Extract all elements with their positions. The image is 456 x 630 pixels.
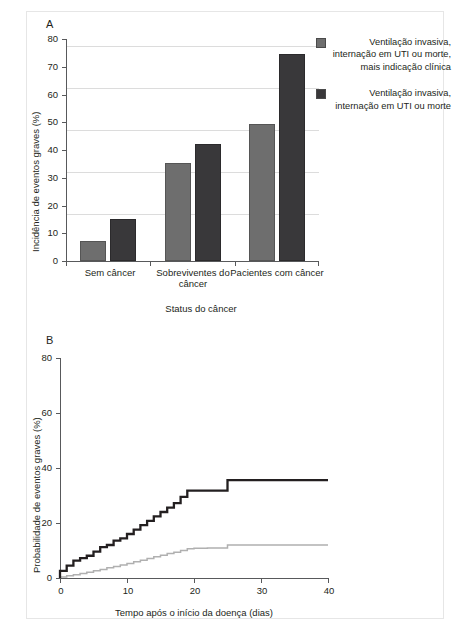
panel-a-y-tick-label: 50 <box>20 116 58 127</box>
panel-a-legend: Ventilação invasiva, internação em UTI o… <box>316 36 456 123</box>
panel-a-y-tick-label: 70 <box>20 61 58 72</box>
panel-a-x-group-tick <box>235 261 236 266</box>
panel-a-y-tick <box>62 233 66 234</box>
panel-a-y-tick-label: 30 <box>20 172 58 183</box>
legend-label-uti: Ventilação invasiva, internação em UTI o… <box>331 87 451 112</box>
panel-a-x-group-tick <box>66 261 67 266</box>
panel-b: B Probabilidade de eventos graves (%) 0 … <box>0 320 456 630</box>
bar-2-1 <box>279 54 305 261</box>
panel-a-y-tick-label: 20 <box>20 200 58 211</box>
panel-a-x-group-tick <box>318 261 319 266</box>
bar-2-0 <box>249 124 275 261</box>
panel-a-y-tick <box>62 95 66 96</box>
legend-item-clinica: Ventilação invasiva, internação em UTI o… <box>316 36 456 73</box>
legend-label-clinica: Ventilação invasiva, internação em UTI o… <box>331 36 451 73</box>
panel-a-y-tick-label: 40 <box>20 144 58 155</box>
panel-a: A Incidência de eventos graves (%) 0 10 … <box>0 0 456 320</box>
bar-0-1 <box>110 219 136 261</box>
panel-a-y-tick-label: 60 <box>20 89 58 100</box>
figure-root: A Incidência de eventos graves (%) 0 10 … <box>0 0 456 630</box>
legend-swatch-dark-icon <box>316 89 326 99</box>
panel-a-y-tick <box>62 67 66 68</box>
panel-a-x-group-tick <box>150 261 151 266</box>
bar-1-1 <box>195 144 221 261</box>
panel-a-x-axis-line <box>66 261 319 262</box>
panel-a-y-tick <box>62 178 66 179</box>
bar-1-0 <box>165 163 191 261</box>
panel-a-x-tick-label-pacientes: Pacientes com câncer <box>229 267 325 278</box>
legend-item-uti: Ventilação invasiva, internação em UTI o… <box>316 87 456 112</box>
panel-a-x-tick-label-sobreviventes: Sobreviventes do câncer <box>152 267 234 289</box>
panel-a-y-tick <box>62 206 66 207</box>
panel-a-x-tick-label-sem-cancer: Sem câncer <box>63 267 157 278</box>
panel-a-y-tick-label: 10 <box>20 227 58 238</box>
panel-b-x-axis-title: Tempo após o início da doença (dias) <box>94 607 294 618</box>
panel-a-letter: A <box>46 18 54 30</box>
panel-a-x-axis-title: Status do câncer <box>126 303 276 314</box>
bar-0-0 <box>80 241 106 261</box>
curve-1 <box>60 480 328 578</box>
panel-a-y-axis-line <box>66 39 67 261</box>
panel-a-y-tick-label: 0 <box>20 255 58 266</box>
panel-a-y-tick <box>62 122 66 123</box>
panel-a-gridline <box>66 46 319 47</box>
panel-b-curves <box>0 320 456 630</box>
panel-a-y-tick <box>62 39 66 40</box>
panel-a-y-tick <box>62 150 66 151</box>
panel-a-y-tick-label: 80 <box>20 33 58 44</box>
legend-swatch-light-icon <box>316 38 326 48</box>
